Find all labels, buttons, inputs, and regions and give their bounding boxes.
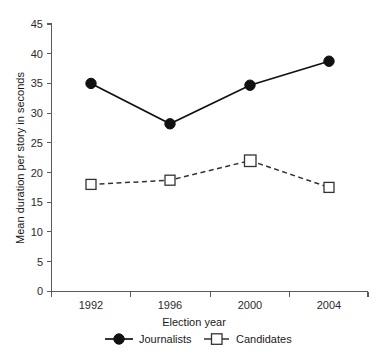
legend-item-journalists[interactable]: Journalists [105, 333, 192, 345]
y-tick-marks [47, 24, 52, 291]
journalists-point-2000 [245, 80, 255, 90]
y-tick-label-40: 40 [31, 48, 43, 60]
candidates-point-2004 [324, 182, 334, 192]
journalists-point-2004 [324, 56, 334, 66]
y-tick-label-30: 30 [31, 107, 43, 119]
journalists-point-1996 [165, 119, 175, 129]
legend-candidates-label: Candidates [236, 333, 292, 345]
x-tick-labels: 1992 1996 2000 2004 [79, 299, 341, 311]
y-tick-label-5: 5 [37, 256, 43, 268]
legend-journalists-marker-icon [114, 334, 124, 344]
y-tick-label-0: 0 [37, 285, 43, 297]
candidates-point-1996 [165, 175, 175, 185]
legend-journalists-label: Journalists [139, 333, 192, 345]
candidates-point-1992 [86, 179, 96, 189]
x-tick-label-1992: 1992 [79, 299, 103, 311]
x-tick-label-1996: 1996 [158, 299, 182, 311]
y-axis-title: Mean duration per story in seconds [14, 72, 26, 244]
y-tick-label-20: 20 [31, 167, 43, 179]
y-tick-label-45: 45 [31, 18, 43, 30]
series-journalists [86, 56, 334, 129]
line-chart: 45 40 35 30 25 20 15 10 5 0 1992 1996 20… [0, 0, 385, 351]
series-candidates [86, 155, 334, 192]
candidates-line [91, 161, 329, 188]
x-tick-label-2004: 2004 [317, 299, 341, 311]
y-tick-labels: 45 40 35 30 25 20 15 10 5 0 [31, 18, 43, 297]
legend-item-candidates[interactable]: Candidates [204, 333, 292, 345]
legend-candidates-marker-icon [212, 334, 223, 345]
x-axis-title: Election year [162, 316, 226, 328]
journalists-line [91, 61, 329, 124]
chart-figure: 45 40 35 30 25 20 15 10 5 0 1992 1996 20… [0, 0, 385, 351]
y-tick-label-35: 35 [31, 77, 43, 89]
y-tick-label-15: 15 [31, 196, 43, 208]
y-tick-label-25: 25 [31, 137, 43, 149]
candidates-point-2000 [245, 155, 257, 167]
journalists-point-1992 [86, 78, 96, 88]
y-tick-label-10: 10 [31, 226, 43, 238]
chart-legend: Journalists Candidates [105, 333, 292, 345]
x-tick-label-2000: 2000 [238, 299, 262, 311]
x-tick-marks [52, 292, 369, 298]
